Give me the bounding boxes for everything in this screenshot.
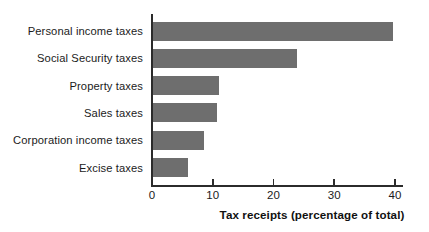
x-axis-tick bbox=[333, 179, 335, 185]
bar-row bbox=[152, 100, 429, 127]
bar bbox=[152, 22, 393, 41]
category-label: Sales taxes bbox=[84, 108, 148, 119]
category-label: Personal income taxes bbox=[28, 26, 148, 37]
category-row: Sales taxes bbox=[0, 100, 148, 127]
x-axis-tick-label: 0 bbox=[149, 189, 156, 201]
x-axis-title: Tax receipts (percentage of total) bbox=[0, 208, 429, 221]
bar bbox=[152, 131, 204, 150]
x-axis-tick-label: 30 bbox=[328, 189, 341, 201]
category-row: Corporation income taxes bbox=[0, 127, 148, 154]
bar-row bbox=[152, 45, 429, 72]
bar-row bbox=[152, 155, 429, 182]
bar-chart: Personal income taxes Social Security ta… bbox=[0, 0, 429, 232]
bar bbox=[152, 103, 217, 122]
x-axis-tick bbox=[394, 179, 396, 185]
bar bbox=[152, 76, 219, 95]
category-label: Corporation income taxes bbox=[13, 135, 148, 146]
bar-row bbox=[152, 73, 429, 100]
x-axis-line bbox=[151, 185, 403, 187]
bar-row bbox=[152, 127, 429, 154]
bar bbox=[152, 49, 297, 68]
x-axis-tick bbox=[273, 179, 275, 185]
bars-layer bbox=[152, 18, 429, 182]
category-label: Social Security taxes bbox=[37, 53, 148, 64]
y-axis-line bbox=[151, 14, 153, 186]
category-label: Property taxes bbox=[69, 81, 148, 92]
plot-area: Personal income taxes Social Security ta… bbox=[0, 0, 429, 232]
x-axis-tick-label: 40 bbox=[388, 189, 401, 201]
category-row: Personal income taxes bbox=[0, 18, 148, 45]
category-row: Property taxes bbox=[0, 73, 148, 100]
x-axis-tick bbox=[151, 179, 153, 185]
category-axis-labels: Personal income taxes Social Security ta… bbox=[0, 18, 148, 182]
x-axis-tick-label: 10 bbox=[206, 189, 219, 201]
category-row: Social Security taxes bbox=[0, 45, 148, 72]
x-axis-tick bbox=[212, 179, 214, 185]
category-row: Excise taxes bbox=[0, 155, 148, 182]
bar-row bbox=[152, 18, 429, 45]
category-label: Excise taxes bbox=[79, 163, 148, 174]
bar bbox=[152, 158, 188, 177]
x-axis-tick-label: 20 bbox=[267, 189, 280, 201]
